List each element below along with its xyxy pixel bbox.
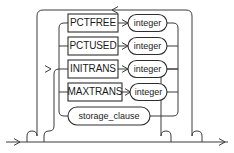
- nonterminal-label-pctfree-integer: integer: [134, 18, 162, 28]
- row-maxtrans[interactable]: MAXTRANS integer: [68, 83, 167, 101]
- row-initrans[interactable]: INITRANS integer: [68, 60, 167, 78]
- nonterminal-label-storage-clause: storage_clause: [78, 111, 139, 121]
- collector-spine-bottom-corner: [173, 111, 178, 116]
- keyword-label-initrans: INITRANS: [70, 63, 116, 74]
- row-storage-clause[interactable]: storage_clause: [68, 107, 150, 125]
- nonterminal-label-initrans-integer: integer: [134, 64, 162, 74]
- branch-spine-bottom-corner: [59, 111, 68, 116]
- keyword-label-pctfree: PCTFREE: [70, 17, 116, 28]
- collector-descent-rail: [161, 69, 178, 142]
- row-pctused[interactable]: PCTUSED integer: [68, 37, 167, 55]
- keyword-label-pctused: PCTUSED: [69, 40, 116, 51]
- branch-entry-rail: [44, 69, 59, 142]
- nonterminal-label-pctused-integer: integer: [134, 41, 162, 51]
- branch-entry-arrow-icon: [45, 66, 51, 73]
- syntax-diagram: PCTFREE integer PCTUSED integer INITRANS…: [0, 0, 234, 153]
- outer-right-loop-rail: [186, 10, 202, 142]
- row-pctfree[interactable]: PCTFREE integer: [68, 14, 167, 32]
- branch-spine-top-corner: [59, 23, 68, 28]
- collector-spine-top-corner: [173, 23, 178, 28]
- keyword-label-maxtrans: MAXTRANS: [68, 86, 123, 97]
- nonterminal-label-maxtrans-integer: integer: [135, 87, 163, 97]
- railroad-canvas: PCTFREE integer PCTUSED integer INITRANS…: [0, 0, 234, 153]
